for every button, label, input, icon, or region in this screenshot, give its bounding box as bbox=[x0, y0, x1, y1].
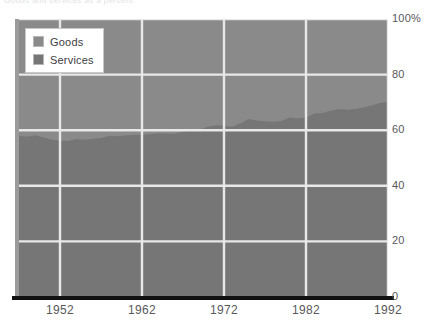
x-tick-label: 1952 bbox=[46, 303, 74, 317]
cropped-header-text: Goods and services as a percent bbox=[4, 0, 224, 6]
x-tick-label: 1972 bbox=[210, 303, 238, 317]
y-tick-label: 0 bbox=[392, 290, 398, 302]
y-tick-label: 40 bbox=[392, 179, 405, 191]
y-tick-label: 60 bbox=[392, 123, 405, 135]
y-tick-label: 20 bbox=[392, 234, 405, 246]
x-tick-label: 1962 bbox=[128, 303, 156, 317]
x-axis-line bbox=[12, 296, 394, 300]
y-tick-label: 100% bbox=[392, 12, 421, 24]
y-tick-label: 80 bbox=[392, 68, 405, 80]
legend-label-services: Services bbox=[50, 54, 94, 66]
legend-swatch-services bbox=[33, 54, 44, 65]
x-tick-label: 1982 bbox=[292, 303, 320, 317]
chart-figure: Goods and services as a percent 100%8060… bbox=[0, 0, 427, 332]
x-tick-label: 1992 bbox=[374, 303, 402, 317]
legend-label-goods: Goods bbox=[50, 36, 83, 48]
legend-item-goods[interactable]: Goods bbox=[33, 34, 94, 49]
legend-item-services[interactable]: Services bbox=[33, 52, 94, 67]
chart-legend: Goods Services bbox=[25, 28, 104, 73]
legend-swatch-goods bbox=[33, 36, 44, 47]
